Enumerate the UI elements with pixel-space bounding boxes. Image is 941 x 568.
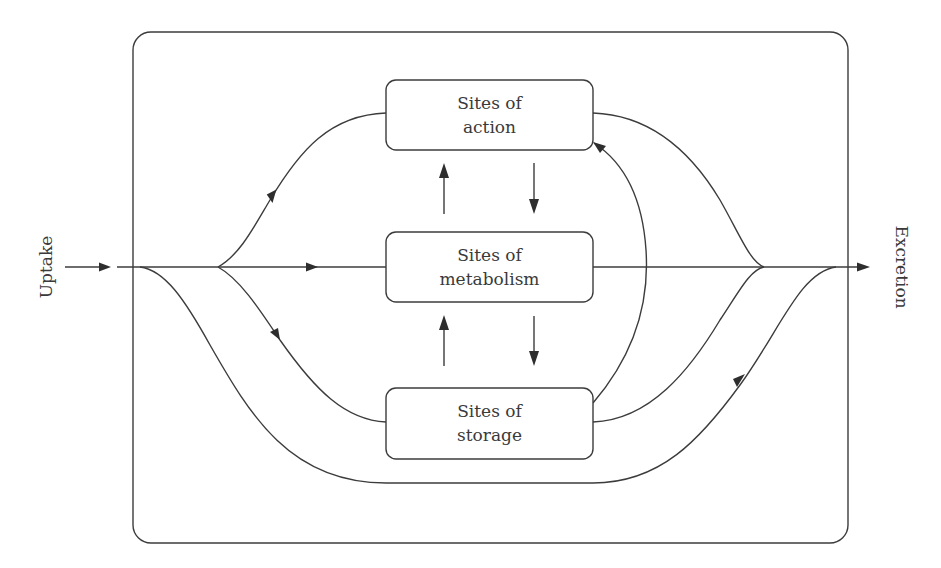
excretion-label: Excretion (892, 225, 912, 308)
node-sites-of-metabolism: Sites of metabolism (386, 232, 593, 302)
uptake-label: Uptake (36, 236, 56, 299)
node-metabolism-line2: metabolism (440, 269, 540, 289)
node-sites-of-action: Sites of action (386, 80, 593, 150)
uptake-arrowhead-icon (99, 263, 111, 272)
node-metabolism-line1: Sites of (457, 245, 523, 265)
node-storage-line2: storage (457, 425, 522, 445)
node-action-line1: Sites of (457, 93, 523, 113)
node-action-line2: action (463, 117, 516, 137)
excretion-arrowhead-icon (857, 263, 870, 272)
node-storage-line1: Sites of (457, 401, 523, 421)
pharmacokinetics-diagram: Sites of action Sites of metabolism Site… (0, 0, 941, 568)
node-sites-of-storage: Sites of storage (386, 388, 593, 459)
